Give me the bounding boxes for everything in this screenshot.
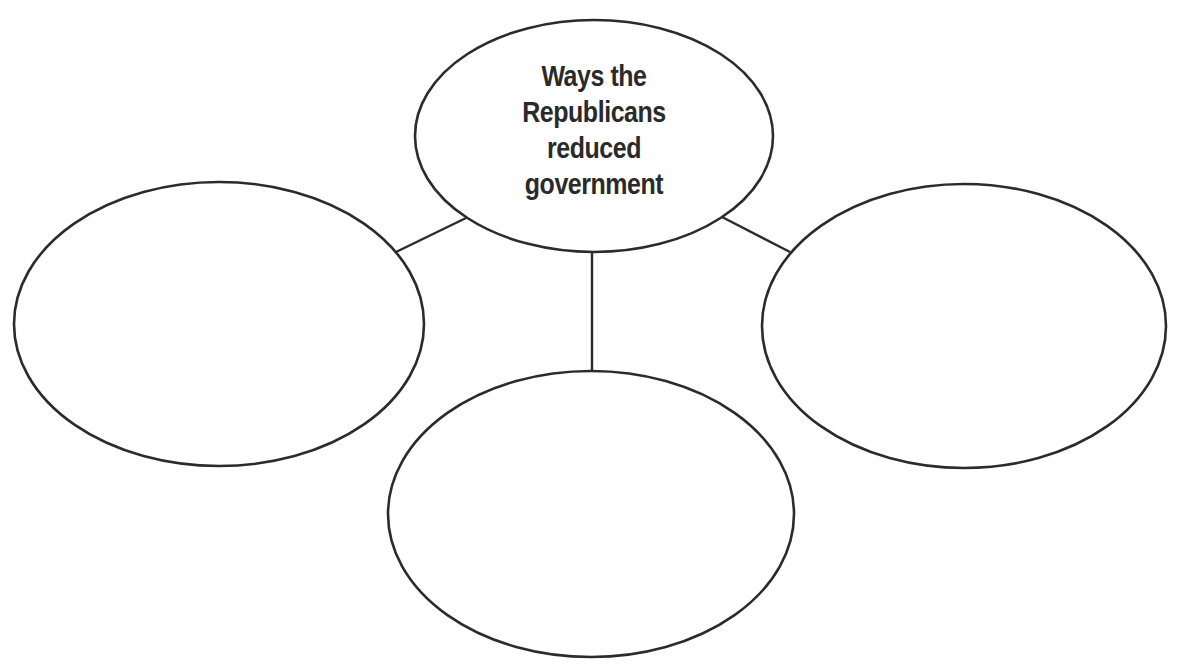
center-label-line-1: Ways the: [487, 58, 700, 94]
center-node-label: Ways the Republicans reduced government: [470, 58, 718, 202]
branch-node-right[interactable]: [762, 184, 1166, 468]
center-label-line-2: Republicans: [487, 94, 700, 130]
center-label-line-4: government: [487, 166, 700, 202]
center-label-line-3: reduced: [487, 130, 700, 166]
branch-node-left[interactable]: [14, 182, 424, 466]
branch-node-bottom[interactable]: [388, 371, 794, 657]
connector-left: [396, 218, 466, 252]
connector-right: [722, 217, 790, 252]
